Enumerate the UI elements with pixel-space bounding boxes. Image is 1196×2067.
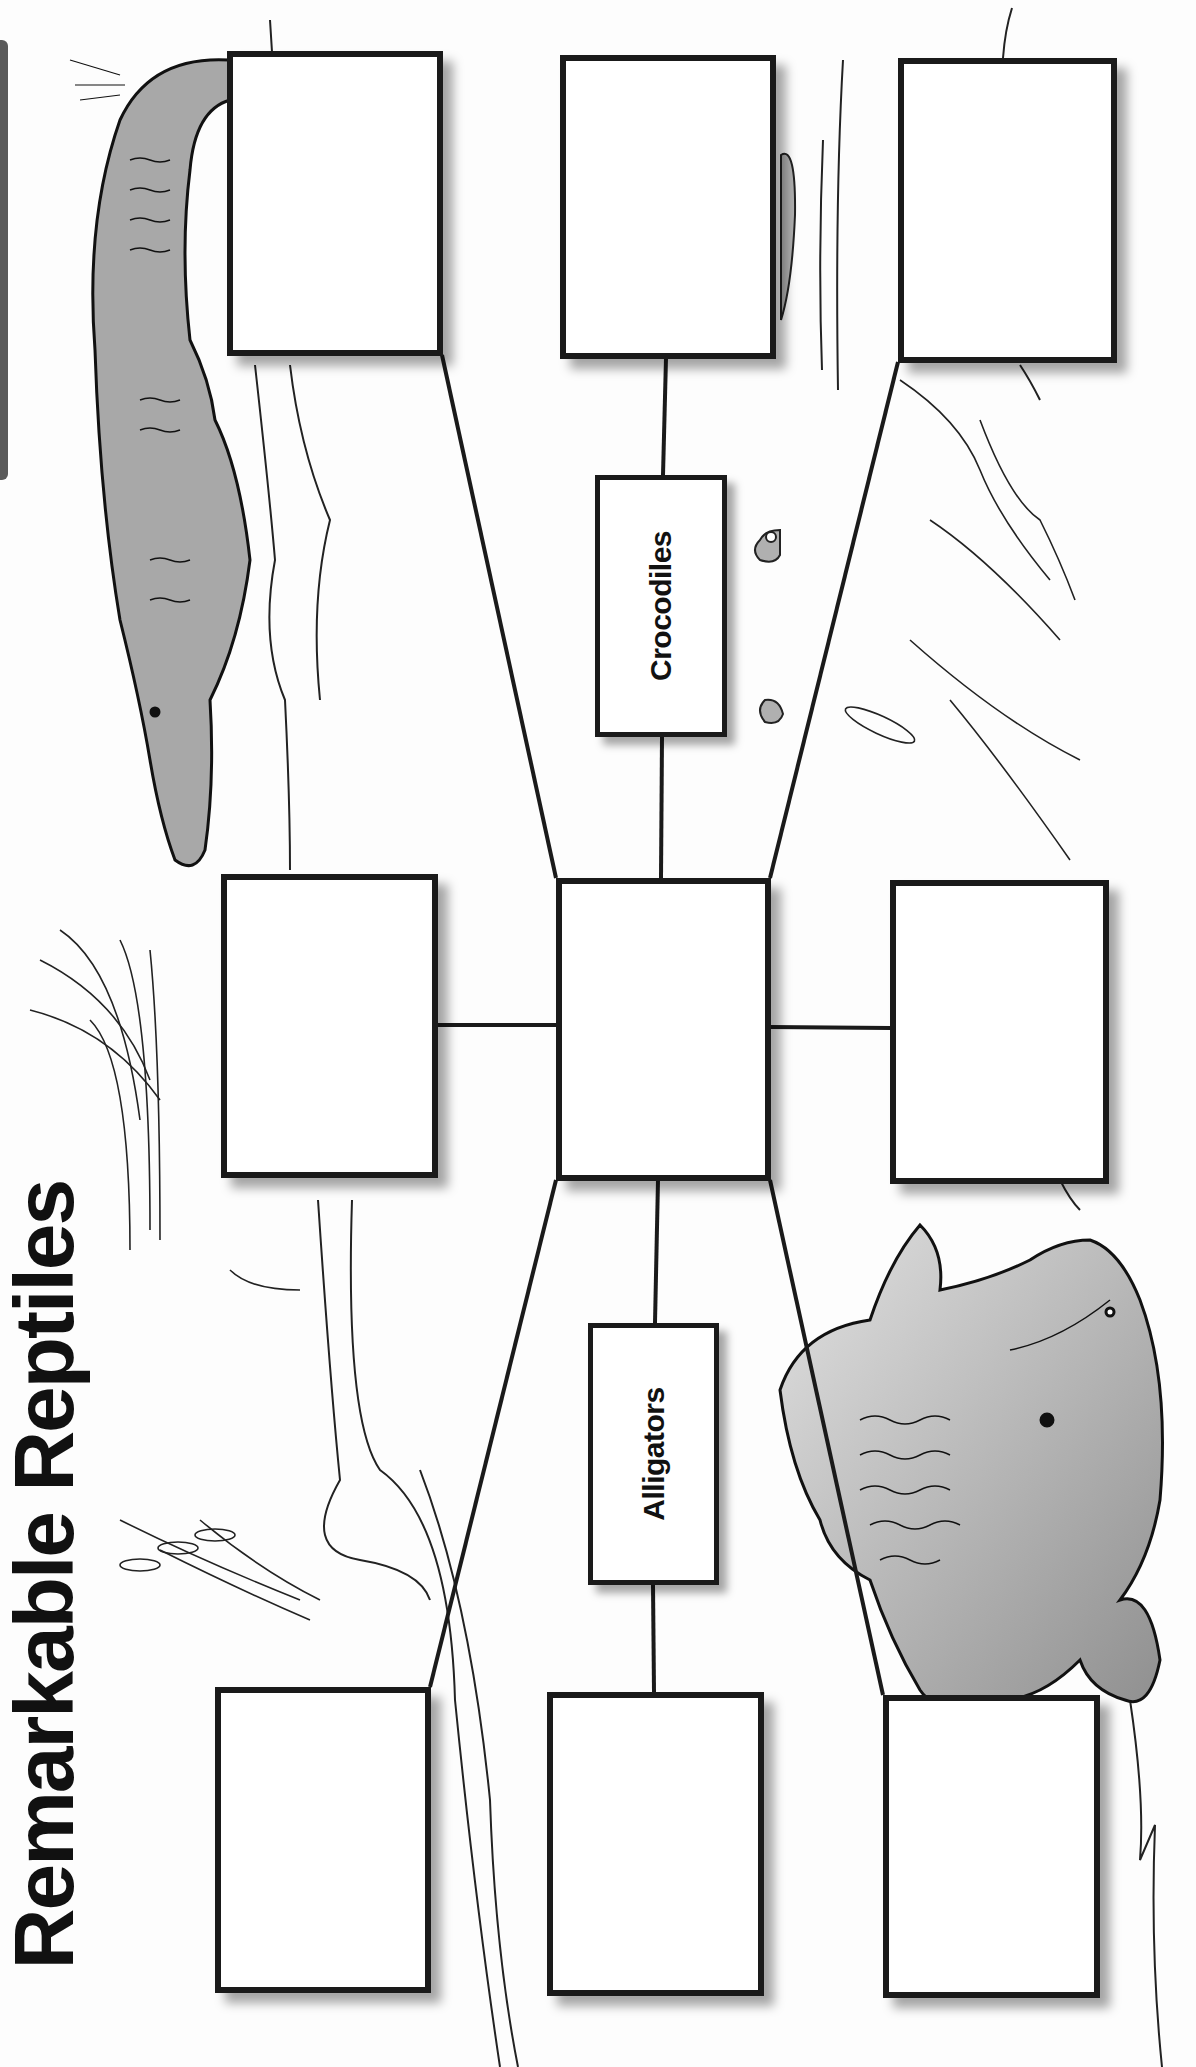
category-label: Crocodiles <box>644 531 678 681</box>
answer-box-shared-left[interactable] <box>221 874 438 1178</box>
answer-box-croc-left[interactable] <box>227 51 443 356</box>
answer-box-alli-right[interactable] <box>883 1695 1100 1998</box>
alligator-illustration <box>780 1225 1163 1708</box>
category-label: Alligators <box>637 1387 671 1520</box>
worksheet-title: Remarkable Reptiles <box>0 1181 93 1969</box>
answer-box-alli-middle[interactable] <box>547 1692 764 1996</box>
answer-box-alli-left[interactable] <box>215 1687 431 1993</box>
answer-box-croc-right[interactable] <box>898 58 1117 363</box>
crocodile-illustration <box>70 60 250 866</box>
category-box-alligators: Alligators <box>588 1323 719 1585</box>
category-box-crocodiles: Crocodiles <box>595 475 727 737</box>
worksheet-page: Remarkable Reptiles Crocodiles Alligator… <box>0 0 1196 2067</box>
answer-box-shared-right[interactable] <box>890 880 1109 1184</box>
answer-box-shared-center[interactable] <box>556 878 771 1181</box>
answer-box-croc-middle[interactable] <box>560 55 776 359</box>
